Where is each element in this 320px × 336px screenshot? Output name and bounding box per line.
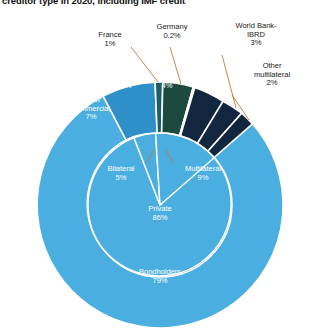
label-germany-value: 0.2%: [143, 32, 201, 41]
chart-canvas: creditor type in 2020, including IMF cre…: [0, 0, 320, 336]
label-bondholders-value: 79%: [126, 277, 194, 286]
label-china: China 4%: [107, 73, 145, 90]
label-other-multilateral: Other multilateral 2%: [237, 62, 307, 88]
label-other-commercial-value: 7%: [60, 113, 122, 122]
label-france: France 1%: [83, 31, 137, 48]
label-china-value: 4%: [107, 82, 145, 91]
label-bilateral-value: 5%: [95, 174, 147, 183]
label-bilateral: Bilateral 5%: [95, 165, 147, 182]
label-private: Private 86%: [134, 205, 186, 222]
pie-chart-svg: [0, 0, 320, 336]
leader-line-world-bank: [222, 55, 236, 108]
label-multilateral: Multilateral 9%: [172, 165, 234, 182]
label-germany: Germany 0.2%: [143, 23, 201, 40]
label-world-bank-ibrd: World Bank- IBRD 3%: [220, 22, 292, 48]
label-other-multilateral-value: 2%: [237, 79, 307, 88]
label-other-commercial: Other commercial 7%: [60, 96, 122, 122]
label-multilateral-value: 9%: [172, 174, 234, 183]
label-bondholders: Bondholders 79%: [126, 268, 194, 285]
label-private-value: 86%: [134, 214, 186, 223]
label-imf: IMF 4%: [151, 73, 183, 90]
label-world-bank-value: 3%: [220, 39, 292, 48]
label-imf-value: 4%: [151, 82, 183, 91]
label-france-value: 1%: [83, 40, 137, 49]
